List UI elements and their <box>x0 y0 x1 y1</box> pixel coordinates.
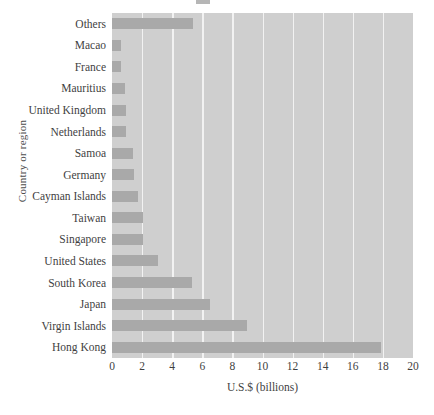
plot-area <box>112 13 413 358</box>
y-axis-tick-label: Japan <box>0 298 106 310</box>
y-axis-tick-label: United Kingdom <box>0 104 106 116</box>
y-axis-tick-label: Others <box>0 18 106 30</box>
y-axis-tick-label: South Korea <box>0 277 106 289</box>
bar <box>112 342 381 353</box>
bar <box>112 148 133 159</box>
bar <box>112 255 158 266</box>
gridline <box>263 13 264 358</box>
y-axis-category-labels: OthersMacaoFranceMauritiusUnited Kingdom… <box>0 13 106 358</box>
y-axis-tick-label: Taiwan <box>0 212 106 224</box>
x-axis-tick-label: 12 <box>287 360 299 372</box>
bar <box>112 83 125 94</box>
x-axis-tick-label: 4 <box>169 360 175 372</box>
bar <box>112 234 143 245</box>
x-axis-tick-label: 8 <box>230 360 236 372</box>
y-axis-tick-label: Singapore <box>0 233 106 245</box>
bar <box>112 277 192 288</box>
x-axis-tick-labels: 02468101214161820 <box>112 360 413 376</box>
x-axis-tick-label: 6 <box>199 360 205 372</box>
y-axis-tick-label: Netherlands <box>0 126 106 138</box>
gridline <box>383 13 384 358</box>
x-axis-tick-label: 20 <box>407 360 419 372</box>
bar <box>112 40 121 51</box>
y-axis-tick-label: Samoa <box>0 147 106 159</box>
gridline <box>353 13 354 358</box>
x-axis-title: U.S.$ (billions) <box>112 381 413 393</box>
clipped-title-remnant <box>196 0 210 4</box>
bar <box>112 299 210 310</box>
x-axis-tick-label: 18 <box>377 360 389 372</box>
gridline <box>232 13 233 358</box>
y-axis-tick-label: Virgin Islands <box>0 320 106 332</box>
x-axis-tick-label: 16 <box>347 360 359 372</box>
x-axis-tick-label: 10 <box>257 360 269 372</box>
bar <box>112 18 193 29</box>
bar <box>112 320 247 331</box>
gridline <box>323 13 324 358</box>
y-axis-tick-label: United States <box>0 255 106 267</box>
y-axis-tick-label: Macao <box>0 39 106 51</box>
gridline <box>293 13 294 358</box>
x-axis-tick-label: 2 <box>139 360 145 372</box>
bar <box>112 191 138 202</box>
bar <box>112 61 121 72</box>
y-axis-tick-label: Germany <box>0 169 106 181</box>
bar <box>112 126 126 137</box>
bar <box>112 212 143 223</box>
x-axis-tick-label: 0 <box>109 360 115 372</box>
x-axis-tick-label: 14 <box>317 360 329 372</box>
bar-chart: Country or region OthersMacaoFranceMauri… <box>0 0 434 415</box>
y-axis-tick-label: Mauritius <box>0 82 106 94</box>
bar <box>112 105 126 116</box>
y-axis-tick-label: France <box>0 61 106 73</box>
y-axis-tick-label: Hong Kong <box>0 341 106 353</box>
y-axis-tick-label: Cayman Islands <box>0 190 106 202</box>
bar <box>112 169 134 180</box>
